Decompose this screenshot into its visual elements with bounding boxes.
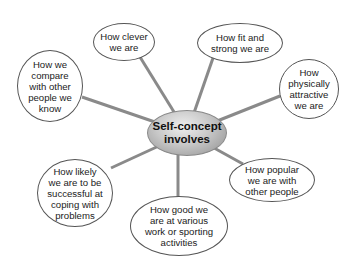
node-label: How popular we are with other people (245, 164, 299, 197)
center-node-self-concept: Self-concept involves (147, 110, 227, 156)
node-label: How good we are at various work or sport… (145, 204, 213, 248)
node-label: How we compare with other people we know (28, 59, 72, 114)
node-how-good-work: How good we are at various work or sport… (130, 196, 228, 256)
node-how-compare: How we compare with other people we know (17, 50, 83, 122)
node-how-clever: How clever we are (93, 23, 155, 61)
node-label: How likely we are to be successful at co… (47, 166, 102, 221)
node-label: How clever we are (100, 31, 147, 53)
center-label: Self-concept involves (152, 120, 221, 146)
node-label: How fit and strong we are (211, 32, 269, 54)
node-how-fit: How fit and strong we are (197, 23, 283, 63)
node-label: How physically attractive we are (288, 67, 330, 111)
mind-map-diagram: How clever we are How fit and strong we … (0, 0, 349, 267)
node-how-popular: How popular we are with other people (229, 158, 315, 202)
node-how-attractive: How physically attractive we are (279, 59, 339, 119)
node-how-coping: How likely we are to be successful at co… (37, 159, 113, 227)
